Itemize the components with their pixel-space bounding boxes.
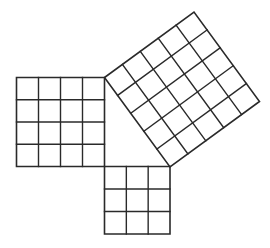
pythagorean-squares-figure (0, 0, 270, 248)
square-outline (105, 167, 171, 235)
hypotenuse-square-5x5-grid (105, 12, 260, 167)
leg-a-square-4x4-grid (17, 78, 105, 167)
square-outline (105, 12, 260, 167)
pythagorean-diagram (0, 0, 270, 248)
leg-b-square-3x3-grid (105, 167, 171, 235)
